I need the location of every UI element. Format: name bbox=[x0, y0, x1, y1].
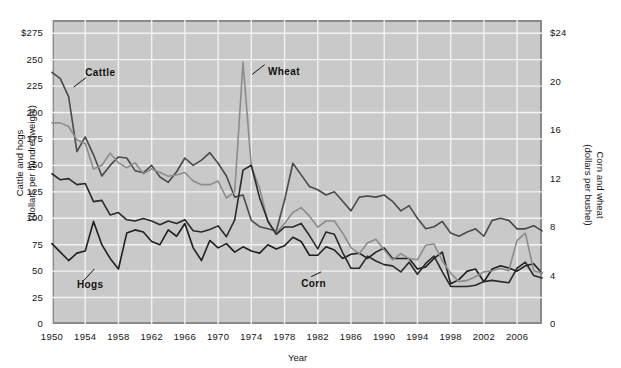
y-tick-right-4: 4 bbox=[550, 270, 555, 281]
y-tick-right-24: $24 bbox=[550, 27, 566, 38]
y-axis-right-title: Corn and wheat (dollars per bushel) bbox=[582, 60, 606, 310]
x-axis-title: Year bbox=[288, 352, 307, 363]
y-axis-right-title-line2: (dollars per bushel) bbox=[582, 60, 594, 310]
y-tick-left-25: 25 bbox=[0, 292, 43, 303]
y-tick-right-20: 20 bbox=[550, 76, 561, 87]
y-tick-right-16: 16 bbox=[550, 124, 561, 135]
y-tick-left-275: $275 bbox=[0, 27, 43, 38]
y-axis-left-title-line2: (dollars per hundredweight) bbox=[26, 38, 38, 288]
series-line-corn bbox=[52, 165, 542, 286]
annotation-cattle: Cattle bbox=[85, 67, 115, 78]
y-axis-left-title-line1: Cattle and hogs bbox=[14, 38, 26, 288]
y-tick-left-0: 0 bbox=[0, 318, 43, 329]
y-tick-right-8: 8 bbox=[550, 221, 555, 232]
y-tick-right-12: 12 bbox=[550, 173, 561, 184]
x-tick-2006: 2006 bbox=[495, 331, 539, 342]
y-tick-right-0: 0 bbox=[550, 318, 555, 329]
series-line-cattle bbox=[52, 72, 542, 236]
y-axis-left-title: Cattle and hogs (dollars per hundredweig… bbox=[14, 38, 38, 288]
annotation-corn: Corn bbox=[301, 278, 326, 289]
annotation-hogs: Hogs bbox=[77, 279, 104, 290]
y-axis-right-title-line1: Corn and wheat bbox=[594, 60, 606, 310]
series-line-wheat bbox=[52, 62, 542, 281]
annotation-wheat: Wheat bbox=[268, 66, 300, 77]
chart-figure: $2752502252001751501251007550250 $242016… bbox=[0, 0, 621, 368]
